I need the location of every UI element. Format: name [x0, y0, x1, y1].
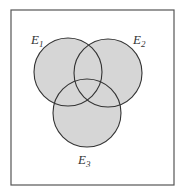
venn-diagram: E1 E2 E3 — [0, 0, 180, 194]
set-label-e3: E3 — [77, 152, 91, 169]
set-label-e2: E2 — [132, 32, 146, 49]
set-label-e1: E1 — [30, 32, 43, 49]
set-fills — [34, 38, 142, 147]
